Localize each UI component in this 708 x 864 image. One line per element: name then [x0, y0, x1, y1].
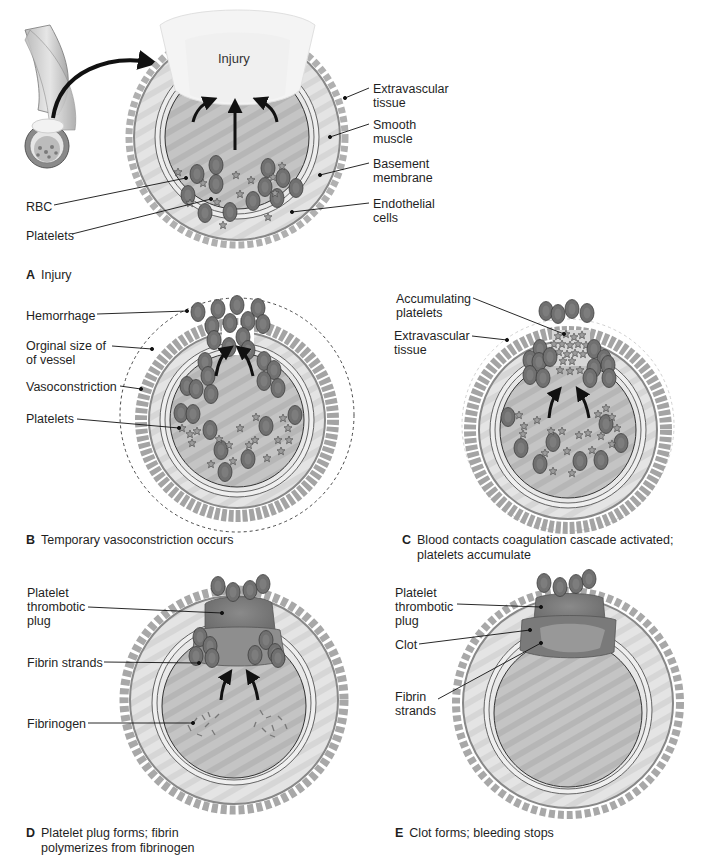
label-endothelial-cells: Endothelialcells — [373, 197, 435, 225]
label-fibrin-strands-e: Fibrinstrands — [395, 690, 436, 718]
label-platelet-plug-e: Plateletthromboticplug — [395, 586, 453, 628]
hemostasis-diagram — [0, 0, 708, 864]
label-rbc: RBC — [26, 200, 52, 214]
injury-label: Injury — [218, 51, 250, 66]
label-clot: Clot — [395, 638, 417, 652]
label-fibrin-strands-d: Fibrin strands — [27, 656, 103, 670]
panel-d — [88, 575, 344, 811]
label-basement-membrane: Basementmembrane — [373, 157, 433, 185]
panel-c — [462, 298, 674, 531]
label-original-size: Orginal size ofof vessel — [26, 339, 106, 367]
label-platelets-b: Platelets — [26, 412, 74, 426]
label-platelets-a: Platelets — [26, 229, 74, 243]
caption-d: DPlatelet plug forms; fibrin polymerizes… — [26, 826, 195, 856]
label-extravascular-tissue-c: Extravasculartissue — [394, 329, 470, 357]
label-vasoconstriction: Vasoconstriction — [26, 380, 117, 394]
label-fibrinogen: Fibrinogen — [27, 717, 86, 731]
label-smooth-muscle: Smoothmuscle — [373, 118, 416, 146]
label-platelet-plug-d: Plateletthromboticplug — [27, 586, 85, 628]
label-hemorrhage: Hemorrhage — [26, 309, 95, 323]
caption-b: BTemporary vasoconstriction occurs — [26, 533, 233, 548]
caption-a: AInjury — [26, 268, 72, 283]
caption-e: EClot forms; bleeding stops — [395, 826, 554, 841]
panel-e — [419, 570, 680, 816]
label-accumulating-platelets: Accumulatingplatelets — [396, 292, 471, 320]
panel-b — [77, 296, 354, 533]
caption-c: CBlood contacts coagulation cascade acti… — [402, 533, 673, 563]
label-extravascular-tissue: Extravasculartissue — [373, 82, 449, 110]
inset-vessel — [25, 25, 76, 168]
panel-a — [25, 10, 369, 245]
